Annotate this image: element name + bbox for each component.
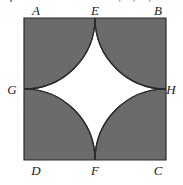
vertex-label-f: F xyxy=(87,164,103,177)
vertex-label-g: G xyxy=(4,83,20,96)
vertex-label-a: A xyxy=(28,4,44,17)
vertex-label-b: B xyxy=(150,4,166,17)
square-with-arcs-diagram xyxy=(0,0,183,185)
vertex-label-c: C xyxy=(150,164,166,177)
vertex-label-h: H xyxy=(163,83,179,96)
vertex-label-d: D xyxy=(28,164,44,177)
shaded-square-region xyxy=(24,18,166,160)
vertex-label-e: E xyxy=(87,4,103,17)
geometry-figure: squares as shown. If A, E, G, and D are … xyxy=(0,0,183,185)
